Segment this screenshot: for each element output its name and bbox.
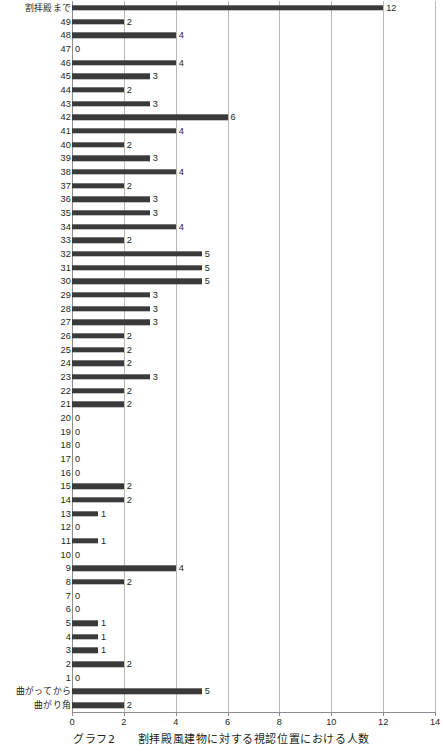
bar-value-label: 3 (153, 99, 158, 109)
bar-value-label: 2 (127, 17, 132, 27)
bar-value-label: 4 (179, 222, 184, 232)
bar (72, 361, 124, 366)
bar (72, 210, 150, 215)
row-label: 8 (66, 577, 71, 587)
bar (72, 333, 124, 338)
bar-value-label: 12 (386, 3, 396, 13)
bar-value-label: 3 (153, 304, 158, 314)
bar (72, 197, 150, 202)
bar (72, 279, 202, 284)
chart-row: 180 (0, 439, 443, 453)
bar-value-label: 0 (75, 591, 80, 601)
x-axis-tick (435, 712, 436, 716)
bar (72, 5, 383, 10)
chart-row: 60 (0, 603, 443, 617)
row-label: 2 (66, 659, 71, 669)
chart-row: 414 (0, 124, 443, 138)
bar-value-label: 0 (75, 522, 80, 532)
chart-row: 353 (0, 206, 443, 220)
x-axis-tick (331, 712, 332, 716)
chart-row: 200 (0, 411, 443, 425)
bar (72, 538, 98, 543)
chart-row: 252 (0, 343, 443, 357)
chart-row: 242 (0, 357, 443, 371)
row-label: 16 (60, 468, 71, 478)
bar (72, 265, 202, 270)
bar (72, 648, 98, 653)
x-axis-tick-label: 2 (121, 717, 126, 728)
bar-value-label: 1 (101, 509, 106, 519)
chart-row: 曲がってから5 (0, 685, 443, 699)
row-label: 33 (60, 235, 71, 245)
x-axis-tick-label: 0 (69, 717, 74, 728)
row-label: 31 (60, 263, 71, 273)
bar-value-label: 2 (127, 481, 132, 491)
chart-row: 割拝殿まで12 (0, 1, 443, 15)
bar (72, 661, 124, 666)
x-axis-tick-label: 8 (277, 717, 282, 728)
bar-value-label: 0 (75, 454, 80, 464)
chart-row: 82 (0, 575, 443, 589)
bar-value-label: 6 (231, 112, 236, 122)
row-label: 12 (60, 522, 71, 532)
bar-value-label: 2 (127, 85, 132, 95)
row-label: 40 (60, 140, 71, 150)
x-axis-line (72, 712, 435, 713)
x-axis-tick-label: 6 (225, 717, 230, 728)
chart-figure: 割拝殿まで12492484470464453442433426414402393… (0, 0, 443, 753)
chart-row: 325 (0, 247, 443, 261)
x-axis-tick (72, 712, 73, 716)
row-label: 15 (60, 481, 71, 491)
bar-value-label: 0 (75, 468, 80, 478)
chart-row: 41 (0, 630, 443, 644)
row-label: 34 (60, 222, 71, 232)
chart-row: 402 (0, 138, 443, 152)
x-axis-tick (383, 712, 384, 716)
row-label: 17 (60, 454, 71, 464)
row-label: 28 (60, 304, 71, 314)
caption-number: グラフ2 (73, 733, 115, 746)
bar-value-label: 0 (75, 673, 80, 683)
bar (72, 702, 124, 707)
bar-value-label: 2 (127, 495, 132, 505)
bar (72, 320, 150, 325)
bar-value-label: 5 (205, 276, 210, 286)
bar (72, 497, 124, 502)
bar-value-label: 2 (127, 386, 132, 396)
bar (72, 579, 124, 584)
row-label: 曲がり角 (34, 700, 71, 710)
row-label: 1 (66, 673, 71, 683)
row-label: 22 (60, 386, 71, 396)
bar-value-label: 2 (127, 577, 132, 587)
row-label: 44 (60, 85, 71, 95)
bar-value-label: 2 (127, 235, 132, 245)
chart-row: 273 (0, 315, 443, 329)
row-label: 47 (60, 44, 71, 54)
chart-row: 426 (0, 110, 443, 124)
row-label: 32 (60, 249, 71, 259)
bar (72, 251, 202, 256)
chart-row: 393 (0, 151, 443, 165)
bar (72, 115, 228, 120)
bar (72, 60, 176, 65)
bar (72, 87, 124, 92)
chart-row: 190 (0, 425, 443, 439)
row-label: 10 (60, 550, 71, 560)
bar (72, 142, 124, 147)
chart-row: 212 (0, 398, 443, 412)
chart-row: 142 (0, 493, 443, 507)
bar-value-label: 3 (153, 290, 158, 300)
row-label: 23 (60, 372, 71, 382)
row-label: 38 (60, 167, 71, 177)
bar (72, 292, 150, 297)
bar-value-label: 4 (179, 126, 184, 136)
bar-value-label: 2 (127, 358, 132, 368)
bar (72, 388, 124, 393)
bar-value-label: 4 (179, 58, 184, 68)
row-label: 30 (60, 276, 71, 286)
chart-row: 453 (0, 69, 443, 83)
bar-value-label: 3 (153, 71, 158, 81)
chart-row: 344 (0, 220, 443, 234)
bar (72, 238, 124, 243)
bar-value-label: 1 (101, 645, 106, 655)
